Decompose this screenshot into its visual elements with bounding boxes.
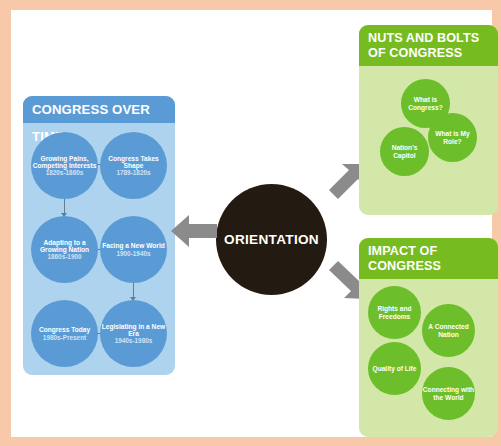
arrow-to-congress-over-time-icon bbox=[171, 213, 217, 249]
bubble-facing-era: 1900-1940s bbox=[102, 250, 165, 257]
bubble-congress-takes-shape-title: Congress Takes Shape bbox=[100, 155, 167, 170]
panel-congress-over-time-title: CONGRESS OVER TIME bbox=[23, 96, 175, 123]
bubble-legislating-title: Legislating in a New Era bbox=[100, 323, 167, 338]
bubble-congress-today[interactable]: Congress Today 1980s-Present bbox=[31, 300, 98, 367]
bubble-facing-title: Facing a New World bbox=[102, 242, 165, 249]
panel-nuts-and-bolts-title: NUTS AND BOLTS OF CONGRESS bbox=[359, 25, 498, 66]
bubble-a-connected-nation[interactable]: A Connected Nation bbox=[422, 304, 475, 357]
bubble-growing-pains-title: Growing Pains, Competing Interests bbox=[31, 155, 98, 170]
bubble-what-is-congress-title: What is Congress? bbox=[401, 96, 450, 111]
bubble-congress-takes-shape-era: 1789-1820s bbox=[100, 169, 167, 176]
bubble-rights-and-freedoms[interactable]: Rights and Freedoms bbox=[368, 286, 421, 339]
bubble-nations-capitol[interactable]: Nation's Capitol bbox=[380, 127, 429, 176]
bubble-quality-of-life[interactable]: Quality of Life bbox=[368, 342, 421, 395]
bubble-congress-today-era: 1980s-Present bbox=[39, 334, 90, 341]
bubble-a-connected-nation-title: A Connected Nation bbox=[422, 323, 475, 338]
panel-nuts-and-bolts-body: What is Congress? Nation's Capitol What … bbox=[359, 66, 498, 215]
poster-frame: CONGRESS OVER TIME Growing Pains, Compet… bbox=[0, 0, 501, 446]
bubble-connecting-with-the-world-title: Connecting with the World bbox=[422, 386, 475, 401]
bubble-growing-pains[interactable]: Growing Pains, Competing Interests 1820s… bbox=[31, 132, 98, 199]
bubble-nations-capitol-title: Nation's Capitol bbox=[380, 144, 429, 159]
bubble-facing-a-new-world[interactable]: Facing a New World 1900-1940s bbox=[100, 216, 167, 283]
diagram-canvas: CONGRESS OVER TIME Growing Pains, Compet… bbox=[11, 10, 492, 437]
bubble-rights-and-freedoms-title: Rights and Freedoms bbox=[368, 305, 421, 320]
panel-impact-of-congress[interactable]: IMPACT OF CONGRESS Rights and Freedoms A… bbox=[359, 238, 498, 437]
panel-impact-of-congress-body: Rights and Freedoms A Connected Nation Q… bbox=[359, 279, 498, 437]
bubble-connecting-with-the-world[interactable]: Connecting with the World bbox=[422, 367, 475, 420]
bubble-growing-pains-era: 1820s-1860s bbox=[31, 169, 98, 176]
panel-nuts-and-bolts[interactable]: NUTS AND BOLTS OF CONGRESS What is Congr… bbox=[359, 25, 498, 215]
bubble-adapting-title: Adapting to a Growing Nation bbox=[31, 239, 98, 254]
panel-impact-of-congress-title: IMPACT OF CONGRESS bbox=[359, 238, 498, 279]
bubble-congress-takes-shape[interactable]: Congress Takes Shape 1789-1820s bbox=[100, 132, 167, 199]
orientation-circle[interactable]: ORIENTATION bbox=[216, 184, 327, 295]
bubble-legislating-era: 1940s-1980s bbox=[100, 337, 167, 344]
bubble-adapting-era: 1860s-1900 bbox=[31, 253, 98, 260]
panel-congress-over-time-body: Growing Pains, Competing Interests 1820s… bbox=[23, 123, 175, 375]
bubble-legislating-in-a-new-era[interactable]: Legislating in a New Era 1940s-1980s bbox=[100, 300, 167, 367]
bubble-quality-of-life-title: Quality of Life bbox=[373, 365, 417, 372]
orientation-label: ORIENTATION bbox=[224, 232, 319, 247]
bubble-adapting-to-a-growing-nation[interactable]: Adapting to a Growing Nation 1860s-1900 bbox=[31, 216, 98, 283]
bubble-what-is-my-role-title: What is My Role? bbox=[428, 130, 477, 145]
bubble-what-is-my-role[interactable]: What is My Role? bbox=[428, 113, 477, 162]
panel-congress-over-time[interactable]: CONGRESS OVER TIME Growing Pains, Compet… bbox=[23, 96, 175, 375]
bubble-congress-today-title: Congress Today bbox=[39, 326, 90, 333]
